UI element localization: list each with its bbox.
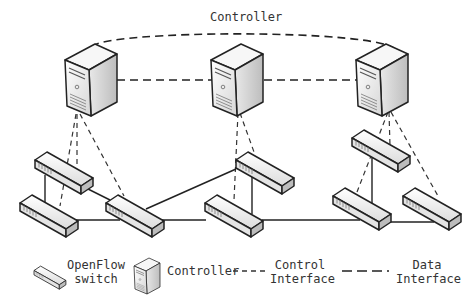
legend-data-interface-line1: Data xyxy=(396,258,458,272)
legend-data-interface-line2: Interface xyxy=(396,272,458,286)
switch-4 xyxy=(236,152,294,194)
switch-5 xyxy=(205,195,263,237)
legend-switch-label-line2: switch xyxy=(66,272,126,286)
legend-control-interface-line2: Interface xyxy=(270,272,330,286)
legend-data-interface-label: Data Interface xyxy=(396,258,458,286)
switch-1 xyxy=(35,152,93,194)
controller-2 xyxy=(211,44,263,116)
controller-3 xyxy=(356,44,408,116)
sdn-diagram xyxy=(0,0,476,299)
legend-switch-label: OpenFlow switch xyxy=(66,258,126,286)
diagram-title: Controller xyxy=(210,10,282,24)
legend-control-interface-label: Control Interface xyxy=(270,258,330,286)
switch-8 xyxy=(403,188,461,230)
switch-2 xyxy=(20,195,78,237)
switch-7 xyxy=(333,188,391,230)
controller-1 xyxy=(65,44,117,116)
legend-controller-label: Controller xyxy=(167,264,239,278)
legend-switch-label-line1: OpenFlow xyxy=(66,258,126,272)
legend-switch-icon xyxy=(34,266,66,289)
legend-controller-icon xyxy=(134,258,160,294)
switch-6 xyxy=(352,130,410,172)
legend-control-interface-line1: Control xyxy=(270,258,330,272)
switch-3 xyxy=(106,195,164,237)
